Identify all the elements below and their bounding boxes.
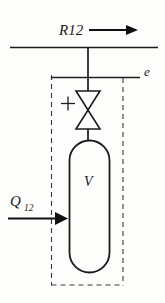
vessel-label: V bbox=[84, 174, 94, 189]
vessel: V bbox=[70, 141, 110, 273]
exit-state-label: e bbox=[144, 64, 150, 79]
supply-flow-annotation: R12 bbox=[58, 22, 138, 38]
valve-sign-group bbox=[61, 97, 75, 111]
supply-line-label: R12 bbox=[58, 22, 84, 38]
heat-input-label: Q bbox=[10, 193, 21, 209]
heat-arrow-head bbox=[55, 212, 68, 225]
valve-upper-triangle bbox=[76, 91, 100, 110]
valve-lower-triangle bbox=[76, 110, 100, 129]
heat-input-subscript: 12 bbox=[24, 203, 34, 213]
vessel-outline bbox=[70, 141, 110, 273]
schematic-canvas: R12 e V bbox=[0, 0, 165, 303]
schematic-diagram: R12 e V bbox=[0, 0, 165, 303]
flow-arrow-head-r12 bbox=[126, 25, 138, 35]
valve bbox=[76, 91, 100, 129]
exit-line-group: e bbox=[51, 64, 150, 79]
heat-input-annotation: Q 12 bbox=[8, 193, 68, 225]
